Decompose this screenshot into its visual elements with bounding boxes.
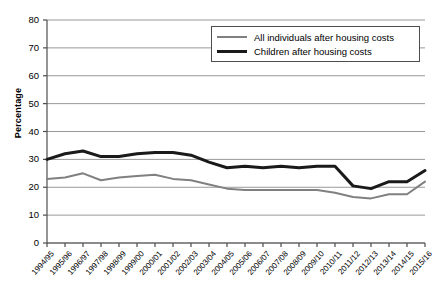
- legend-line-swatch-all-individuals: [217, 36, 247, 38]
- legend-label-children: Children after housing costs: [254, 46, 372, 57]
- chart-legend: All individuals after housing costs Chil…: [211, 26, 420, 62]
- legend-line-swatch-children: [217, 50, 247, 53]
- data-series-line-children: [47, 151, 425, 189]
- data-series-line-all-individuals: [47, 173, 425, 198]
- legend-item: All individuals after housing costs: [217, 30, 413, 44]
- legend-label-all-individuals: All individuals after housing costs: [254, 32, 394, 43]
- legend-item: Children after housing costs: [217, 44, 413, 58]
- chart-container: Percentage 01020304050607080 1994/951995…: [0, 0, 435, 293]
